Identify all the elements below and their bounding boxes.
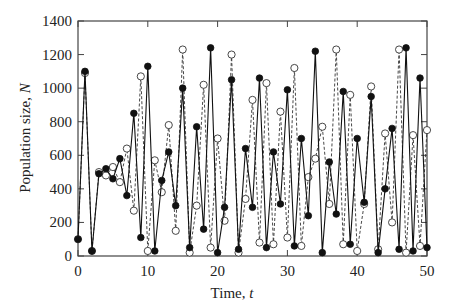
plot-frame [78,21,427,256]
y-tick-label: 800 [50,114,73,130]
filled-marker [145,63,152,70]
open-marker [423,127,430,134]
open-marker [291,64,298,71]
filled-marker [110,175,117,182]
open-marker [270,241,277,248]
y-tick-label: 600 [50,147,73,163]
filled-marker [326,159,333,166]
y-tick-label: 1000 [42,80,72,96]
filled-marker [319,249,326,256]
open-marker [416,242,423,249]
x-axis-label: Time, t [211,285,255,301]
open-marker [179,46,186,53]
y-tick-label: 1200 [42,47,72,63]
filled-marker [221,204,228,211]
open-marker [256,239,263,246]
filled-marker [389,125,396,132]
filled-marker [186,244,193,251]
open-marker [340,241,347,248]
filled-marker [179,85,186,92]
filled-marker [207,45,214,52]
filled-marker [375,249,382,256]
filled-marker [214,249,221,256]
y-tick-label: 1400 [42,13,72,29]
x-tick-label: 30 [280,263,295,279]
open-marker [123,145,130,152]
open-marker [214,135,221,142]
open-marker [319,123,326,130]
filled-marker [382,186,389,193]
x-tick-label: 0 [74,263,82,279]
filled-marker [89,248,96,255]
open-marker [151,157,158,164]
filled-marker [410,248,417,255]
filled-marker [151,248,158,255]
filled-marker [270,149,277,156]
filled-marker [172,202,179,209]
open-marker [284,234,291,241]
open-marker [382,130,389,137]
open-marker [130,207,137,214]
open-marker [193,202,200,209]
filled-marker [96,170,103,177]
filled-marker [117,155,124,162]
open-marker [263,80,270,87]
filled-marker [242,145,249,152]
open-marker [172,227,179,234]
x-tick-label: 40 [350,263,365,279]
filled-marker [82,68,89,75]
population-chart: 0200400600800100012001400 01020304050 Ti… [0,0,454,307]
filled-marker [249,204,256,211]
y-tick-label: 200 [50,214,73,230]
open-marker [354,247,361,254]
open-marker [298,242,305,249]
open-marker [109,163,116,170]
open-marker [409,132,416,139]
filled-marker [131,110,138,117]
filled-marker [333,211,340,218]
open-marker [242,195,249,202]
filled-marker [396,246,403,253]
filled-marker [193,123,200,130]
open-marker [200,81,207,88]
open-marker [277,108,284,115]
open-marker [368,83,375,90]
filled-marker [284,87,291,94]
filled-marker [361,199,368,206]
x-tick-label: 20 [210,263,225,279]
x-tick-label: 10 [140,263,155,279]
y-axis-label: Population size, N [17,82,33,193]
y-tick-label: 400 [50,181,73,197]
filled-marker [200,226,207,233]
open-marker [116,179,123,186]
filled-marker [347,241,354,248]
open-marker [144,247,151,254]
filled-marker [235,246,242,253]
filled-marker [291,243,298,250]
open-marker [137,73,144,80]
filled-marker [256,75,263,82]
filled-marker [124,192,131,199]
filled-marker [368,93,375,100]
open-marker [158,189,165,196]
open-marker [395,46,402,53]
open-marker [249,96,256,103]
filled-marker [277,201,284,208]
filled-marker [305,212,312,219]
filled-marker [138,234,145,241]
open-marker [207,244,214,251]
filled-marker [312,48,319,55]
filled-marker [403,45,410,52]
filled-marker [340,88,347,95]
filled-marker [424,244,431,251]
filled-marker [75,236,82,243]
open-marker [389,219,396,226]
open-marker [333,46,340,53]
filled-marker [158,177,165,184]
filled-marker [228,76,235,83]
filled-marker [417,75,424,82]
filled-marker [103,165,110,172]
filled-marker [298,135,305,142]
filled-marker [165,149,172,156]
filled-marker [263,244,270,251]
